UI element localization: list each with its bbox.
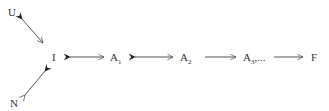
- node-a3-label: A: [243, 51, 251, 63]
- node-f-label: F: [311, 51, 317, 63]
- node-u: U: [8, 6, 16, 18]
- svg-text:A2: A2: [180, 51, 192, 66]
- node-a3-suffix: ,...: [254, 51, 265, 63]
- flow-diagram: U N I A1 A2 A3,... F: [0, 0, 329, 111]
- node-n-label: N: [10, 97, 18, 109]
- node-a2-subscript: 2: [188, 58, 192, 66]
- svg-text:A1: A1: [110, 51, 122, 66]
- edge-n-i-arrow: [25, 71, 45, 95]
- node-a1: A1: [110, 51, 122, 66]
- node-n: N: [10, 97, 18, 109]
- node-a2-label: A: [180, 51, 188, 63]
- diagram-canvas: U N I A1 A2 A3,... F: [0, 0, 329, 111]
- node-i-label: I: [52, 51, 56, 63]
- svg-text:A3,...: A3,...: [243, 51, 266, 66]
- node-a1-label: A: [110, 51, 118, 63]
- node-a3: A3,...: [243, 51, 266, 66]
- node-u-label: U: [8, 6, 16, 18]
- node-a1-subscript: 1: [118, 58, 122, 66]
- edge-u-i-arrow: [22, 19, 43, 43]
- node-a2: A2: [180, 51, 192, 66]
- node-f: F: [311, 51, 317, 63]
- node-i: I: [52, 51, 56, 63]
